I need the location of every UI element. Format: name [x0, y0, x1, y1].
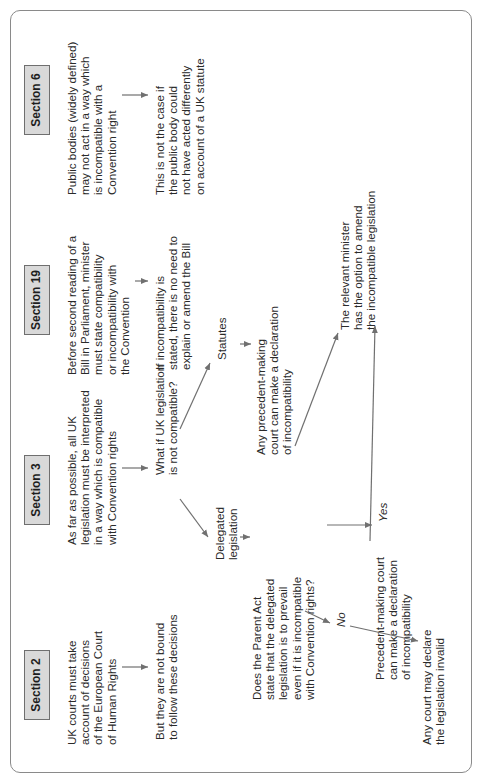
arrow-to-no	[305, 611, 330, 623]
arrow-to-delegated	[180, 499, 208, 537]
arrow-yes-to-minister	[370, 326, 375, 541]
arrow-statutes-to-minister	[295, 333, 338, 446]
arrow-to-statutes	[180, 363, 210, 429]
flow-arrows	[0, 0, 483, 781]
diagram-canvas: Section 2 Section 3 Section 19 Section 6…	[0, 0, 483, 781]
arrow-no-outcome	[350, 626, 418, 641]
